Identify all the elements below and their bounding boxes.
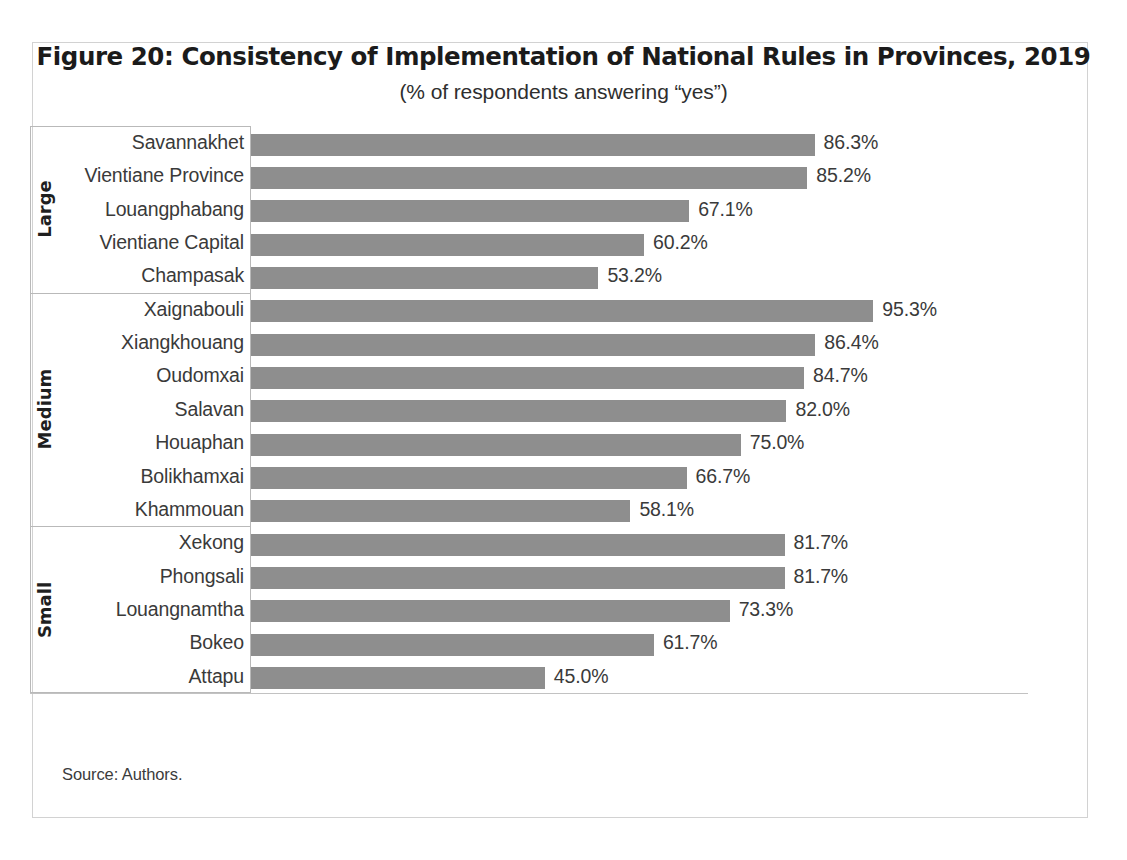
bar-and-value: 86.4% (251, 326, 879, 358)
chart-subtitle: (% of respondents answering “yes”) (0, 80, 1127, 104)
bar (251, 367, 804, 389)
category-label: Khammouan (135, 493, 244, 525)
bar (251, 234, 644, 256)
bar (251, 434, 741, 456)
bar-row: Bokeo61.7% (30, 626, 1028, 658)
bar (251, 667, 545, 689)
bar (251, 534, 785, 556)
category-label: Oudomxai (156, 359, 244, 391)
bar-and-value: 60.2% (251, 226, 708, 258)
bar-row: Phongsali81.7% (30, 560, 1028, 592)
bar (251, 267, 598, 289)
bar-row: Bolikhamxai66.7% (30, 460, 1028, 492)
source-note: Source: Authors. (62, 765, 182, 784)
bar-value-label: 85.2% (816, 159, 871, 191)
group-divider (30, 526, 251, 527)
bar-value-label: 75.0% (750, 426, 805, 458)
bar (251, 634, 654, 656)
bar-value-label: 86.4% (824, 326, 879, 358)
bar (251, 300, 873, 322)
group-label-medium: Medium (34, 293, 56, 526)
category-label: Phongsali (160, 560, 244, 592)
bar-row: Xaignabouli95.3% (30, 293, 1028, 325)
bar-value-label: 81.7% (794, 560, 849, 592)
category-label: Savannakhet (132, 126, 244, 158)
bar-value-label: 58.1% (639, 493, 694, 525)
bar-and-value: 61.7% (251, 626, 717, 658)
chart-plot-area: Savannakhet86.3%Vientiane Province85.2%L… (30, 126, 1028, 694)
chart-title: Figure 20: Consistency of Implementation… (0, 42, 1127, 71)
category-label: Louangnamtha (116, 593, 244, 625)
bar (251, 400, 786, 422)
bar (251, 200, 689, 222)
bar-value-label: 66.7% (696, 460, 751, 492)
bar-and-value: 53.2% (251, 259, 662, 291)
chart-axis-line (30, 693, 1028, 694)
bar (251, 134, 815, 156)
group-label-small: Small (34, 526, 56, 693)
category-label: Xaignabouli (144, 293, 244, 325)
bar (251, 567, 785, 589)
bar-row: Vientiane Capital60.2% (30, 226, 1028, 258)
bar-and-value: 82.0% (251, 393, 850, 425)
bar-value-label: 53.2% (607, 259, 662, 291)
bar-row: Louangphabang67.1% (30, 193, 1028, 225)
group-label-large: Large (34, 126, 56, 293)
bar-row: Vientiane Province85.2% (30, 159, 1028, 191)
bar-and-value: 84.7% (251, 359, 868, 391)
bar-and-value: 58.1% (251, 493, 694, 525)
bar-value-label: 73.3% (739, 593, 794, 625)
bar-and-value: 85.2% (251, 159, 871, 191)
bar-value-label: 95.3% (882, 293, 937, 325)
bar (251, 467, 687, 489)
bar-and-value: 95.3% (251, 293, 937, 325)
bar (251, 334, 815, 356)
category-label: Attapu (189, 660, 244, 692)
category-label: Vientiane Capital (99, 226, 244, 258)
category-label: Houaphan (155, 426, 244, 458)
title-block: Figure 20: Consistency of Implementation… (0, 42, 1127, 104)
bar-value-label: 82.0% (795, 393, 850, 425)
bar-value-label: 81.7% (794, 526, 849, 558)
category-label: Salavan (175, 393, 244, 425)
bar-value-label: 61.7% (663, 626, 718, 658)
bar-and-value: 45.0% (251, 660, 608, 692)
bar (251, 500, 630, 522)
bar-row: Xekong81.7% (30, 526, 1028, 558)
bar-and-value: 81.7% (251, 560, 848, 592)
category-label: Vientiane Province (84, 159, 244, 191)
bar-and-value: 75.0% (251, 426, 804, 458)
bar-row: Savannakhet86.3% (30, 126, 1028, 158)
category-label: Xiangkhouang (121, 326, 244, 358)
group-divider (30, 293, 251, 294)
bar-row: Champasak53.2% (30, 259, 1028, 291)
category-label: Xekong (179, 526, 244, 558)
bar-row: Salavan82.0% (30, 393, 1028, 425)
bar-row: Oudomxai84.7% (30, 359, 1028, 391)
bar-and-value: 86.3% (251, 126, 878, 158)
category-label: Champasak (141, 259, 244, 291)
bar-row: Louangnamtha73.3% (30, 593, 1028, 625)
bar-and-value: 66.7% (251, 460, 750, 492)
bar-value-label: 67.1% (698, 193, 753, 225)
category-label: Louangphabang (105, 193, 244, 225)
category-label: Bokeo (189, 626, 244, 658)
category-label: Bolikhamxai (141, 460, 244, 492)
bar-value-label: 60.2% (653, 226, 708, 258)
bar-row: Houaphan75.0% (30, 426, 1028, 458)
bar-value-label: 45.0% (554, 660, 609, 692)
bar-and-value: 73.3% (251, 593, 793, 625)
bar-row: Attapu45.0% (30, 660, 1028, 692)
bar-value-label: 84.7% (813, 359, 868, 391)
bar (251, 167, 807, 189)
bar-value-label: 86.3% (824, 126, 879, 158)
bar-and-value: 81.7% (251, 526, 848, 558)
bar-row: Khammouan58.1% (30, 493, 1028, 525)
bar-and-value: 67.1% (251, 193, 753, 225)
bar (251, 600, 730, 622)
bar-row: Xiangkhouang86.4% (30, 326, 1028, 358)
